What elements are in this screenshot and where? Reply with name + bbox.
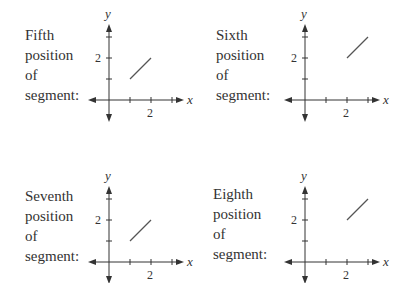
y-tick-label: 2	[95, 213, 101, 227]
coordinate-plane: x y 2 2	[0, 141, 202, 283]
y-axis-label: y	[103, 6, 111, 21]
y-tick-label: 2	[291, 51, 297, 65]
x-arrow-left-icon	[88, 97, 96, 103]
segment	[347, 37, 368, 58]
x-arrow-right-icon	[372, 259, 380, 265]
coordinate-plane: x y 2 2	[202, 141, 404, 283]
y-tick-label: 2	[291, 213, 297, 227]
x-tick-label: 2	[147, 268, 153, 282]
y-arrow-down-icon	[106, 276, 112, 283]
x-arrow-left-icon	[284, 97, 292, 103]
segment	[347, 199, 368, 220]
y-arrow-down-icon	[302, 114, 308, 122]
x-arrow-right-icon	[176, 97, 184, 103]
x-tick-label: 2	[147, 106, 153, 120]
y-arrow-up-icon	[106, 186, 112, 194]
coordinate-plane: x y 2 2	[202, 0, 404, 141]
x-tick-label: 2	[343, 268, 349, 282]
y-tick-label: 2	[95, 51, 101, 65]
x-axis-label: x	[382, 92, 389, 107]
panel-seventh: Seventh position of segment: x y 2 2	[0, 141, 202, 283]
x-tick-label: 2	[343, 106, 349, 120]
y-arrow-up-icon	[106, 24, 112, 32]
x-arrow-left-icon	[284, 259, 292, 265]
segment	[130, 58, 151, 79]
y-axis-label: y	[299, 168, 307, 183]
y-arrow-up-icon	[302, 186, 308, 194]
y-axis-label: y	[299, 6, 307, 21]
x-arrow-right-icon	[372, 97, 380, 103]
y-arrow-down-icon	[106, 114, 112, 122]
y-axis-label: y	[103, 168, 111, 183]
segment	[130, 220, 151, 241]
x-axis-label: x	[186, 254, 193, 269]
x-arrow-right-icon	[176, 259, 184, 265]
y-arrow-down-icon	[302, 276, 308, 283]
y-arrow-up-icon	[302, 24, 308, 32]
panel-eighth: Eighth position of segment: x y 2 2	[202, 141, 404, 283]
panel-sixth: Sixth position of segment: x y 2 2	[202, 0, 404, 141]
coordinate-plane: x y 2 2	[0, 0, 202, 141]
x-arrow-left-icon	[88, 259, 96, 265]
panel-fifth: Fifth position of segment: x y 2 2	[0, 0, 202, 141]
x-axis-label: x	[186, 92, 193, 107]
x-axis-label: x	[382, 254, 389, 269]
